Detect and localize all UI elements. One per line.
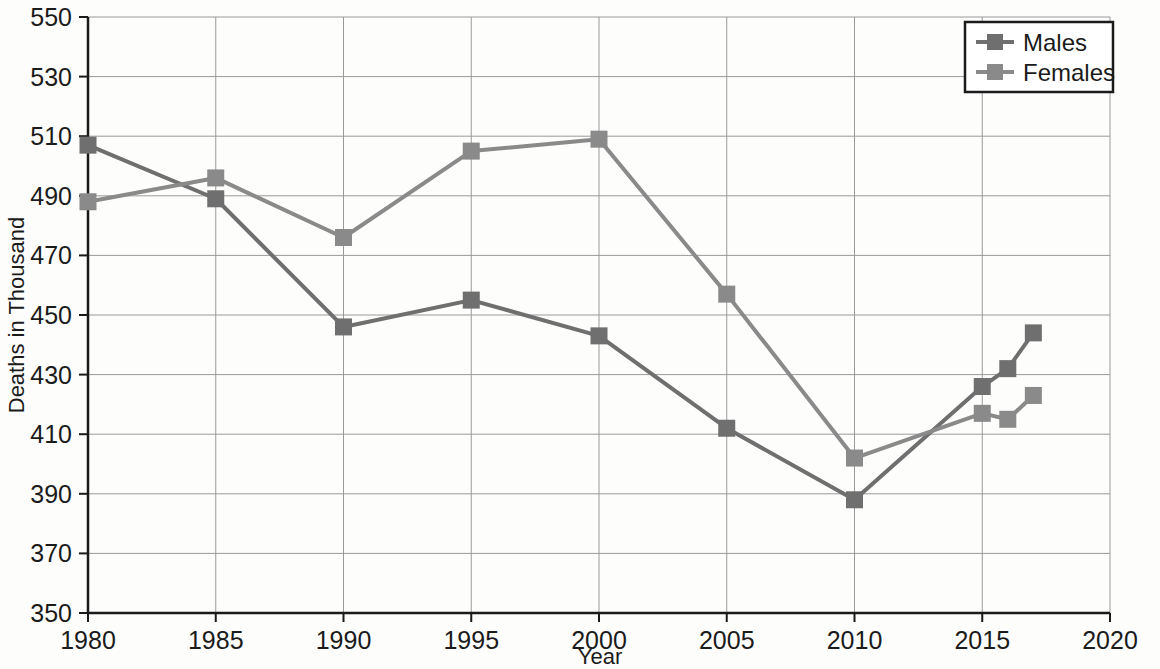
data-point-marker-males bbox=[974, 378, 991, 395]
tick-marks-group bbox=[79, 17, 1110, 622]
x-tick-label: 2005 bbox=[699, 626, 755, 654]
x-tick-label: 2015 bbox=[954, 626, 1010, 654]
y-tick-label: 510 bbox=[30, 122, 72, 150]
y-tick-label: 370 bbox=[30, 539, 72, 567]
y-tick-label: 490 bbox=[30, 182, 72, 210]
data-point-marker-females bbox=[80, 193, 97, 210]
legend-label-females: Females bbox=[1023, 59, 1115, 86]
series-line-females bbox=[88, 139, 1033, 458]
y-tick-label: 410 bbox=[30, 420, 72, 448]
data-point-marker-males bbox=[846, 491, 863, 508]
data-point-marker-females bbox=[591, 131, 608, 148]
x-tick-label: 2020 bbox=[1082, 626, 1138, 654]
x-tick-label: 2010 bbox=[827, 626, 883, 654]
data-point-marker-females bbox=[999, 411, 1016, 428]
legend: MalesFemales bbox=[965, 22, 1115, 92]
y-tick-label: 470 bbox=[30, 241, 72, 269]
data-point-marker-males bbox=[718, 420, 735, 437]
x-axis-title: Year bbox=[578, 644, 622, 669]
legend-marker-swatch bbox=[987, 34, 1003, 50]
data-point-marker-females bbox=[463, 143, 480, 160]
data-point-marker-males bbox=[80, 137, 97, 154]
data-point-marker-males bbox=[999, 360, 1016, 377]
x-tick-label: 1980 bbox=[60, 626, 116, 654]
series-markers-group bbox=[80, 131, 1042, 509]
gridlines-group bbox=[88, 17, 1110, 613]
y-tick-label: 430 bbox=[30, 361, 72, 389]
y-axis-title: Deaths in Thousand bbox=[4, 217, 29, 414]
data-point-marker-males bbox=[591, 327, 608, 344]
data-point-marker-females bbox=[207, 169, 224, 186]
data-point-marker-females bbox=[718, 286, 735, 303]
data-point-marker-males bbox=[463, 292, 480, 309]
data-point-marker-males bbox=[207, 190, 224, 207]
data-point-marker-females bbox=[974, 405, 991, 422]
series-lines-group bbox=[88, 139, 1033, 500]
y-tick-labels-group: 350370390410430450470490510530550 bbox=[30, 3, 72, 627]
x-tick-label: 1985 bbox=[188, 626, 244, 654]
data-point-marker-females bbox=[335, 229, 352, 246]
data-point-marker-males bbox=[1025, 324, 1042, 341]
y-tick-label: 530 bbox=[30, 63, 72, 91]
data-point-marker-females bbox=[1025, 387, 1042, 404]
data-point-marker-females bbox=[846, 450, 863, 467]
chart-canvas: 350370390410430450470490510530550 198019… bbox=[0, 0, 1160, 669]
data-point-marker-males bbox=[335, 318, 352, 335]
y-tick-label: 550 bbox=[30, 3, 72, 31]
y-tick-label: 450 bbox=[30, 301, 72, 329]
y-tick-label: 350 bbox=[30, 599, 72, 627]
legend-label-males: Males bbox=[1023, 29, 1087, 56]
legend-marker-swatch bbox=[987, 64, 1003, 80]
x-tick-label: 1990 bbox=[316, 626, 372, 654]
y-tick-label: 390 bbox=[30, 480, 72, 508]
x-tick-label: 1995 bbox=[443, 626, 499, 654]
line-chart-figure: 350370390410430450470490510530550 198019… bbox=[0, 0, 1160, 669]
